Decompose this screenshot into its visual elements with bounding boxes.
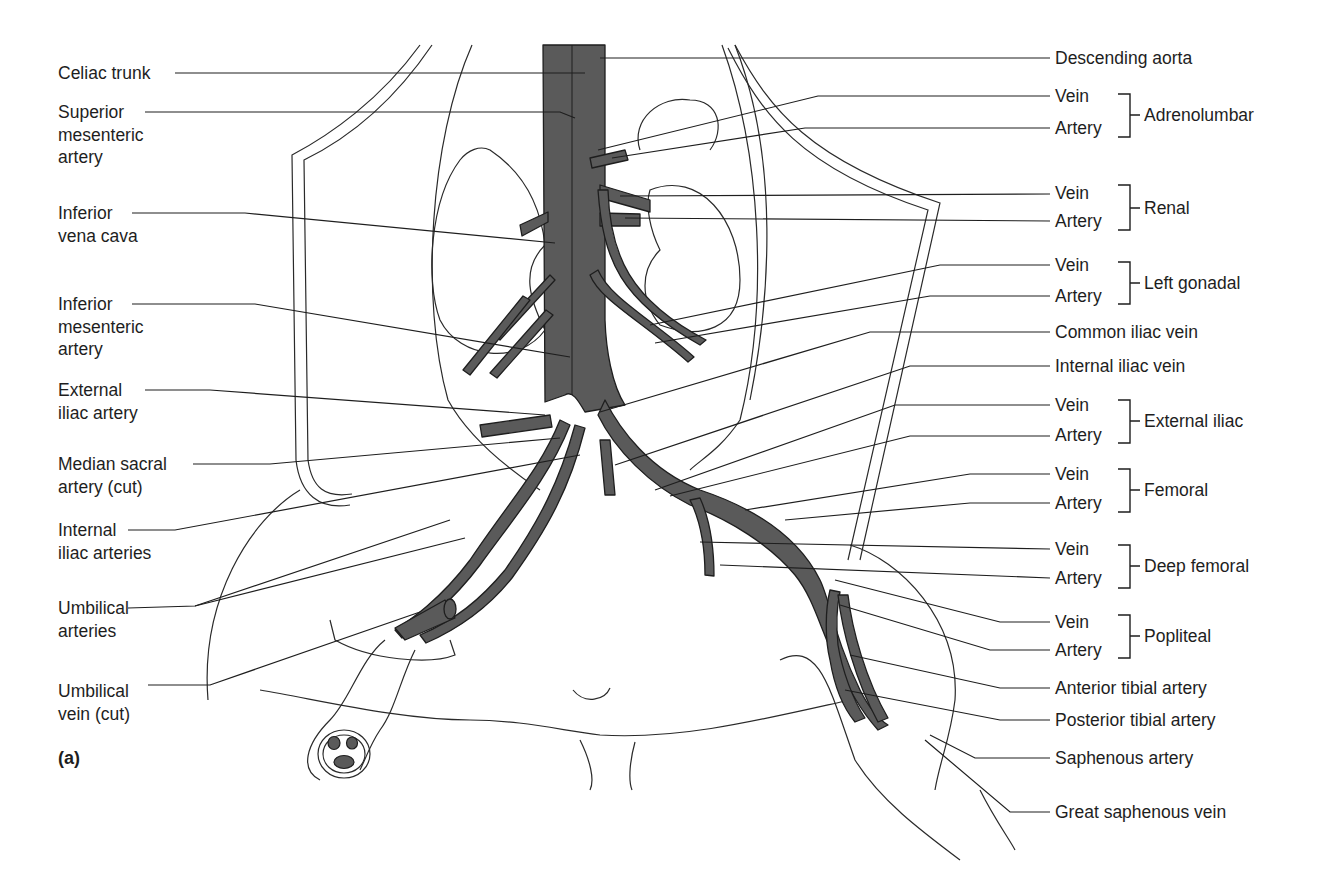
label-deep-femoral-vein: Vein <box>1055 538 1089 561</box>
label-superior-mesenteric-artery: Superiormesentericartery <box>58 101 144 169</box>
group-left-gonadal: Left gonadal <box>1144 272 1240 294</box>
label-renal-vein: Vein <box>1055 182 1089 205</box>
group-adrenolumbar: Adrenolumbar <box>1144 104 1254 126</box>
right-body-wall <box>735 45 940 560</box>
label-internal-iliac-arteries: Internaliliac arteries <box>58 519 151 564</box>
label-umbilical-arteries: Umbilicalarteries <box>58 597 129 642</box>
label-left-gonadal-vein: Vein <box>1055 254 1089 277</box>
label-umbilical-vein: Umbilicalvein (cut) <box>58 680 130 725</box>
anatomy-figure: Celiac trunk Superiormesentericartery In… <box>0 0 1326 889</box>
label-external-iliac-artery-right: Artery <box>1055 424 1102 447</box>
adrenal-gland <box>638 99 718 150</box>
group-popliteal: Popliteal <box>1144 625 1211 647</box>
label-femoral-artery: Artery <box>1055 492 1102 515</box>
label-posterior-tibial-artery: Posterior tibial artery <box>1055 709 1215 732</box>
group-femoral: Femoral <box>1144 479 1208 501</box>
label-anterior-tibial-artery: Anterior tibial artery <box>1055 677 1207 700</box>
label-femoral-vein: Vein <box>1055 463 1089 486</box>
label-common-iliac-vein: Common iliac vein <box>1055 321 1198 344</box>
label-popliteal-artery: Artery <box>1055 639 1102 662</box>
left-leader-lines <box>128 73 585 685</box>
group-deep-femoral: Deep femoral <box>1144 555 1249 577</box>
label-inferior-mesenteric-artery: Inferiormesentericartery <box>58 293 144 361</box>
panel-label: (a) <box>58 748 80 769</box>
label-celiac-trunk: Celiac trunk <box>58 62 150 85</box>
group-external-iliac: External iliac <box>1144 410 1243 432</box>
label-saphenous-artery: Saphenous artery <box>1055 747 1193 770</box>
label-external-iliac-artery: Externaliliac artery <box>58 379 138 424</box>
label-deep-femoral-artery: Artery <box>1055 567 1102 590</box>
left-kidney <box>432 148 545 353</box>
label-external-iliac-vein: Vein <box>1055 394 1089 417</box>
belly-contour <box>260 690 850 736</box>
label-left-gonadal-artery: Artery <box>1055 285 1102 308</box>
label-internal-iliac-vein: Internal iliac vein <box>1055 355 1185 378</box>
label-adrenolumbar-vein: Vein <box>1055 85 1089 108</box>
label-inferior-vena-cava: Inferiorvena cava <box>58 202 138 247</box>
label-descending-aorta: Descending aorta <box>1055 47 1192 70</box>
label-median-sacral-artery: Median sacralartery (cut) <box>58 453 167 498</box>
right-leader-lines <box>598 58 1050 812</box>
umbilical-cord-section <box>318 730 370 778</box>
label-adrenolumbar-artery: Artery <box>1055 117 1102 140</box>
label-renal-artery: Artery <box>1055 210 1102 233</box>
label-great-saphenous-vein: Great saphenous vein <box>1055 801 1226 824</box>
label-popliteal-vein: Vein <box>1055 611 1089 634</box>
left-body-wall <box>292 45 420 506</box>
group-renal: Renal <box>1144 197 1190 219</box>
